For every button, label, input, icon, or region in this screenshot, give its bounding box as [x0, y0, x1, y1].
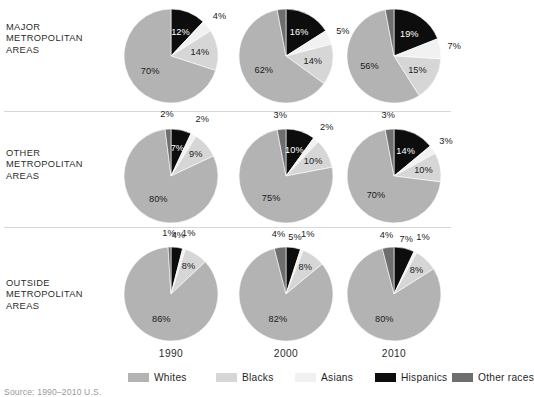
legend-item-asians: Asians [295, 370, 353, 384]
source-note: Source: 1990–2010 U.S. [4, 387, 101, 397]
slice-value-blacks: 8% [182, 261, 195, 271]
slice-value-asians: 1% [416, 232, 429, 242]
slice-value-hispanics: 7% [400, 234, 413, 244]
legend-item-hispanics: Hispanics [375, 370, 447, 384]
slice-value-blacks: 10% [304, 156, 323, 166]
slice-value-other-races: 3% [382, 0, 395, 1]
row-label-outside-metropolitan-areas: OUTSIDE METROPOLITAN AREAS [6, 278, 83, 312]
slice-value-whites: 62% [254, 65, 273, 75]
slice-value-blacks: 8% [299, 262, 312, 272]
slice-value-whites: 80% [149, 194, 168, 204]
slice-value-hispanics: 12% [171, 27, 190, 37]
slice-value-asians: 4% [213, 11, 226, 21]
slice-value-asians: 1% [301, 229, 314, 239]
slice-value-blacks: 15% [408, 65, 427, 75]
pie-graphic [232, 240, 340, 348]
slice-value-asians: 2% [320, 122, 333, 132]
slice-value-other-races: 3% [381, 110, 394, 120]
pie-chart-1990-row2: 7%2%9%80%2% [117, 122, 225, 230]
pie-chart-2000-row1: 16%5%14%62%3% [232, 2, 340, 110]
slice-value-whites: 70% [141, 66, 160, 76]
slice-value-whites: 80% [375, 314, 394, 324]
slice-value-whites: 70% [367, 190, 386, 200]
legend-item-blacks: Blacks [216, 370, 274, 384]
pie-chart-2010-row1: 19%7%15%56%3% [340, 2, 448, 110]
pie-chart-1990-row3: 4%1%8%86%1% [117, 240, 225, 348]
pie-chart-2000-row2: 10%2%10%75%3% [232, 122, 340, 230]
chart-legend: WhitesBlacksAsiansHispanicsOther races [0, 370, 455, 384]
pie-chart-1990-row1: 12%4%14%70% [117, 2, 225, 110]
row-label-major-metropolitan-areas: MAJOR METROPOLITAN AREAS [6, 22, 83, 56]
legend-swatch-icon [216, 373, 237, 382]
pie-chart-2010-row3: 7%1%8%80%4% [340, 240, 448, 348]
slice-value-other-races: 3% [274, 0, 287, 1]
slice-value-other-races: 2% [160, 109, 173, 119]
slice-value-whites: 75% [262, 193, 281, 203]
legend-label: Other races [478, 372, 534, 383]
pie-graphic [340, 240, 448, 348]
legend-swatch-icon [128, 373, 149, 382]
pie-graphic [340, 122, 448, 230]
slice-value-blacks: 14% [303, 56, 322, 66]
slice-value-other-races: 4% [380, 230, 393, 240]
pie-graphic [340, 2, 448, 110]
slice-value-asians: 2% [195, 114, 208, 124]
pie-graphic [117, 240, 225, 348]
slice-value-hispanics: 7% [171, 143, 184, 153]
legend-swatch-icon [452, 373, 473, 382]
slice-value-other-races: 1% [162, 228, 175, 238]
slice-value-whites: 86% [152, 314, 171, 324]
year-label-2000: 2000 [274, 348, 298, 359]
legend-label: Hispanics [401, 372, 447, 383]
slice-value-blacks: 14% [191, 47, 210, 57]
slice-value-hispanics: 19% [400, 29, 419, 39]
slice-value-blacks: 10% [414, 165, 433, 175]
legend-swatch-icon [375, 373, 396, 382]
row-label-other-metropolitan-areas: OTHER METROPOLITAN AREAS [6, 148, 83, 182]
pie-chart-2010-row2: 14%3%10%70%3% [340, 122, 448, 230]
legend-item-other-races: Other races [452, 370, 534, 384]
pie-graphic [232, 122, 340, 230]
year-label-1990: 1990 [159, 348, 183, 359]
slice-value-asians: 3% [439, 136, 452, 146]
pie-graphic [232, 2, 340, 110]
slice-value-hispanics: 10% [285, 145, 304, 155]
legend-label: Blacks [242, 372, 274, 383]
pie-chart-2000-row3: 5%1%8%82%4% [232, 240, 340, 348]
slice-value-whites: 56% [360, 61, 379, 71]
slice-value-other-races: 3% [273, 110, 286, 120]
pie-graphic [117, 122, 225, 230]
slice-value-hispanics: 14% [396, 146, 415, 156]
year-label-2010: 2010 [382, 348, 406, 359]
slice-value-asians: 1% [182, 228, 195, 238]
legend-label: Whites [154, 372, 187, 383]
slice-value-other-races: 4% [272, 229, 285, 239]
slice-value-whites: 82% [269, 314, 288, 324]
legend-item-whites: Whites [128, 370, 187, 384]
legend-swatch-icon [295, 373, 316, 382]
slice-value-blacks: 8% [410, 265, 423, 275]
slice-value-blacks: 9% [189, 149, 202, 159]
slice-value-asians: 7% [448, 41, 461, 51]
slice-value-hispanics: 16% [290, 27, 309, 37]
legend-label: Asians [321, 372, 353, 383]
slice-value-hispanics: 5% [288, 232, 301, 242]
